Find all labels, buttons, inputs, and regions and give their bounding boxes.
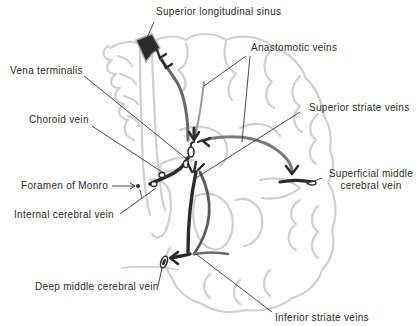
label-anastomotic-veins: Anastomotic veins xyxy=(251,42,337,54)
leader-vena-terminalis xyxy=(84,76,188,160)
diagram-canvas xyxy=(0,0,420,326)
label-internal-cerebral-vein: Internal cerebral vein xyxy=(14,209,114,221)
cerebral-veins-diagram: Superior longitudinal sinus Anastomotic … xyxy=(0,0,420,326)
leader-superior-striate-veins xyxy=(196,112,300,178)
label-deep-middle-cerebral-vein: Deep middle cerebral vein xyxy=(35,281,159,293)
label-superior-striate-veins: Superior striate veins xyxy=(309,102,410,114)
label-vena-terminalis: Vena terminalis xyxy=(10,65,83,77)
label-superficial-middle-cerebral-vein: Superficial middle cerebral vein xyxy=(326,168,416,192)
label-superficial-middle-cerebral-vein-line2: cerebral vein xyxy=(326,180,416,192)
leader-inferior-striate-veins xyxy=(196,254,272,312)
label-foramen-of-monro: Foramen of Monro xyxy=(21,180,108,192)
leader-internal-cerebral-vein xyxy=(120,188,156,214)
label-superficial-middle-cerebral-vein-line1: Superficial middle xyxy=(326,168,416,180)
label-choroid-vein: Choroid vein xyxy=(29,114,89,126)
label-inferior-striate-veins: Inferior striate veins xyxy=(275,312,369,324)
brain-outline xyxy=(104,34,336,312)
leader-choroid-vein xyxy=(92,126,162,172)
leader-anastomotic-veins-2 xyxy=(242,56,250,142)
label-superior-longitudinal-sinus: Superior longitudinal sinus xyxy=(156,6,281,18)
